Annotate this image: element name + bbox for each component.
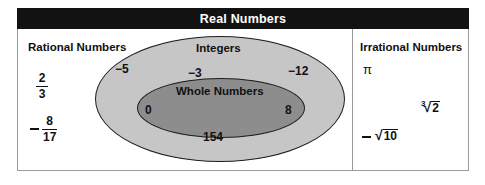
label-irrational-numbers: Irrational Numbers [360, 41, 462, 53]
radical-sign-icon: √ [423, 100, 431, 114]
value-negative-three: −3 [188, 66, 202, 80]
value-negative-five: −5 [115, 62, 129, 76]
minus-sign-icon [30, 128, 39, 130]
label-whole-numbers: Whole Numbers [176, 85, 264, 97]
fraction-denominator: 17 [42, 131, 57, 144]
label-rational-numbers: Rational Numbers [28, 41, 126, 53]
value-negative-twelve: −12 [288, 64, 308, 78]
real-numbers-diagram: Real Numbers Rational Numbers 2 3 8 17 I… [0, 0, 485, 185]
value-negative-square-root-of-ten: √ 10 [362, 128, 398, 144]
radical-sign-icon: √ [375, 128, 383, 142]
fraction-denominator: 3 [38, 88, 47, 101]
value-cube-root-of-two: 3 √ 2 [421, 100, 440, 116]
fraction-eight-seventeenths: 8 17 [42, 115, 57, 144]
value-two-thirds: 2 3 [36, 72, 48, 101]
value-eight: 8 [285, 103, 292, 117]
vertical-divider [352, 29, 353, 171]
radicand: 10 [383, 129, 398, 144]
fraction-numerator: 8 [45, 115, 54, 128]
page-title: Real Numbers [200, 12, 286, 26]
label-integers: Integers [196, 42, 241, 54]
radicand: 2 [431, 101, 440, 116]
value-zero: 0 [145, 103, 152, 117]
title-bar: Real Numbers [17, 8, 469, 29]
fraction-numerator: 2 [38, 72, 47, 85]
value-pi: π [363, 62, 372, 77]
value-one-hundred-fifty-four: 154 [203, 130, 223, 144]
minus-sign-icon [362, 136, 371, 138]
value-negative-eight-seventeenths: 8 17 [30, 115, 57, 144]
